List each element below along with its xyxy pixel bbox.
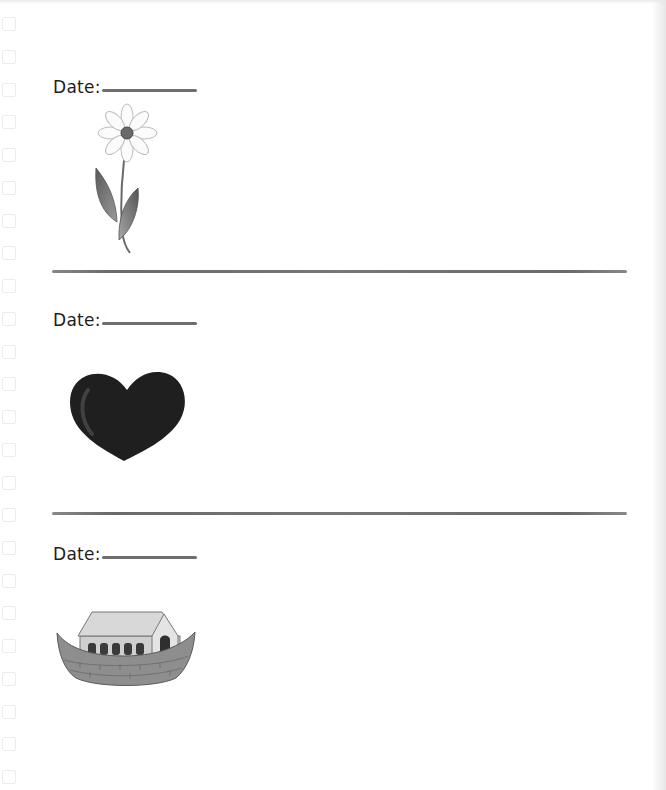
heart-icon [66,370,190,466]
date-blank-line[interactable] [102,556,197,559]
date-field[interactable]: Date: [53,540,197,564]
binding-box [2,574,16,588]
binding-box [2,541,16,555]
binding-box [2,443,16,457]
binding-box [2,181,16,195]
date-label: Date: [53,77,101,97]
binding-box [2,639,16,653]
binding-box [2,83,16,97]
binding-box [2,672,16,686]
binding-box [2,705,16,719]
daisy-flower-icon [88,100,168,260]
date-blank-line[interactable] [102,322,197,325]
binding-box [2,279,16,293]
binding-box [2,50,16,64]
binding-box [2,345,16,359]
binding-box [2,770,16,784]
binding-box [2,148,16,162]
binding-box [2,606,16,620]
binding-box [2,737,16,751]
section-divider [52,512,627,515]
noahs-ark-icon [54,604,200,690]
binding-box [2,312,16,326]
binding-box [2,508,16,522]
section-divider [52,270,627,273]
page-top-shadow [0,0,666,4]
binding-box [2,246,16,260]
date-field[interactable]: Date: [53,73,197,97]
date-blank-line[interactable] [102,89,197,92]
binding-box [2,410,16,424]
binding-box [2,17,16,31]
binding-box [2,377,16,391]
date-label: Date: [53,544,101,564]
binding-box [2,476,16,490]
binding-box [2,115,16,129]
page-edge-shadow [652,0,666,790]
binding-box [2,214,16,228]
date-label: Date: [53,310,101,330]
date-field[interactable]: Date: [53,306,197,330]
